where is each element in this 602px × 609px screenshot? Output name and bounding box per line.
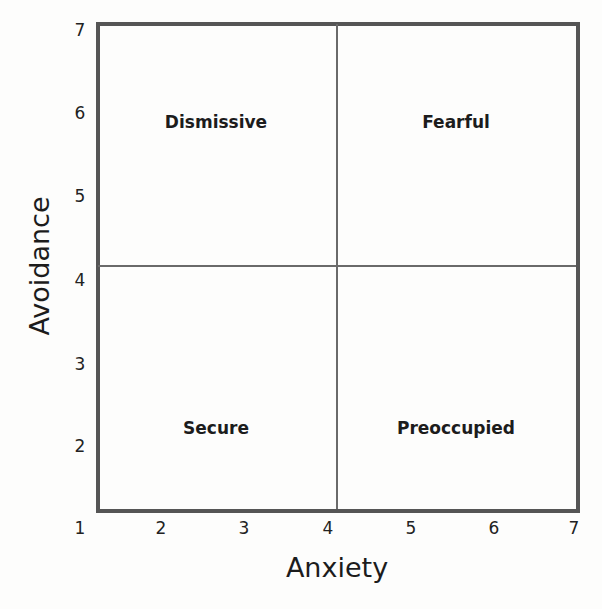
plot-frame bbox=[96, 22, 580, 513]
quadrant-label-preoccupied: Preoccupied bbox=[397, 418, 515, 438]
x-tick-1: 1 bbox=[75, 518, 86, 538]
x-axis-title: Anxiety bbox=[286, 552, 388, 583]
y-tick-5: 5 bbox=[75, 186, 86, 206]
y-tick-3: 3 bbox=[75, 354, 86, 374]
x-tick-2: 2 bbox=[156, 518, 167, 538]
y-tick-6: 6 bbox=[75, 103, 86, 123]
avoidance-midpoint-divider bbox=[98, 265, 576, 267]
y-tick-7: 7 bbox=[75, 20, 86, 40]
x-tick-7: 7 bbox=[569, 518, 580, 538]
x-tick-6: 6 bbox=[489, 518, 500, 538]
y-tick-2: 2 bbox=[75, 436, 86, 456]
quadrant-label-secure: Secure bbox=[183, 418, 249, 438]
y-axis-title: Avoidance bbox=[24, 196, 55, 335]
quadrant-label-fearful: Fearful bbox=[422, 112, 490, 132]
x-tick-3: 3 bbox=[239, 518, 250, 538]
x-tick-4: 4 bbox=[323, 518, 334, 538]
x-tick-5: 5 bbox=[406, 518, 417, 538]
quadrant-label-dismissive: Dismissive bbox=[165, 112, 267, 132]
y-tick-4: 4 bbox=[75, 270, 86, 290]
